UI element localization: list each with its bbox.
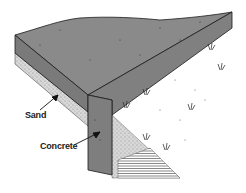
label-concrete: Concrete <box>40 141 77 151</box>
ground-specks <box>160 80 206 141</box>
footing-wall <box>88 95 112 175</box>
slab-diagram <box>0 0 246 193</box>
label-sand: Sand <box>25 110 46 120</box>
